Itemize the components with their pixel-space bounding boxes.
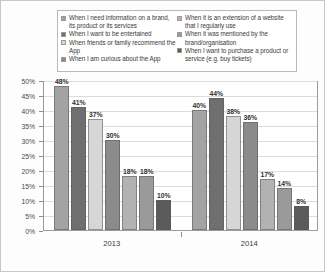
bar-slot: 14% [276,82,293,230]
bar-slot: 48% [53,82,70,230]
bar-value-label: 44% [209,90,223,97]
bar[interactable] [260,179,275,230]
y-axis-tick-label: 5% [25,213,35,220]
x-axis-tick-divider [181,232,182,237]
bar-slot: 10% [155,82,172,230]
legend-item[interactable]: When friends or family recommend the App [61,39,177,55]
legend-swatch-icon [177,16,182,21]
legend-item-label: When I want to purchase a product or ser… [185,47,294,63]
x-axis: 20132014 [43,232,318,256]
bar-value-label: 38% [226,108,240,115]
y-axis-tick-label: 35% [21,123,35,130]
bar-slot: 18% [121,82,138,230]
bar-value-label: 48% [55,78,69,85]
legend-column-left: When I need information on a brand, its … [61,14,177,69]
legend-item-label: When I need information on a brand, its … [69,14,177,30]
bar-slot: 18% [138,82,155,230]
legend-swatch-icon [177,48,182,53]
bar-value-label: 8% [296,198,306,205]
bar[interactable] [192,110,207,230]
bar-value-label: 10% [157,192,171,199]
bar[interactable] [88,119,103,230]
bar-value-label: 17% [260,171,274,178]
y-axis-tick-label: 25% [21,153,35,160]
bar[interactable] [156,200,171,230]
legend-swatch-icon [61,57,66,62]
x-axis-category-label: 2014 [241,239,258,248]
legend-item[interactable]: When I need information on a brand, its … [61,14,177,30]
bar-slot: 40% [191,82,208,230]
legend-item[interactable]: When I want to be entertained [61,30,177,38]
bar[interactable] [226,116,241,230]
chart-figure: When I need information on a brand, its … [0,0,325,272]
bar-value-label: 36% [243,114,257,121]
bar-slot: 36% [242,82,259,230]
bar[interactable] [139,176,154,230]
bar-value-label: 30% [106,132,120,139]
bar-slot: 17% [259,82,276,230]
bar-value-label: 14% [277,180,291,187]
bar-slot: 30% [104,82,121,230]
legend-item-label: When I am curious about the App [69,55,161,63]
bar[interactable] [294,206,309,230]
y-axis-tick-label: 40% [21,108,35,115]
legend-item[interactable]: When it was mentioned by the brand/organ… [177,30,294,46]
y-axis-tick-label: 20% [21,168,35,175]
legend-item-label: When I want to be entertained [69,30,152,38]
y-axis-tick-label: 45% [21,93,35,100]
bar-slot: 38% [225,82,242,230]
bar[interactable] [122,176,137,230]
bar-value-label: 18% [123,168,137,175]
bar-slot: 37% [87,82,104,230]
legend-item[interactable]: When I am curious about the App [61,55,177,63]
bar-group: 40%44%38%36%17%14%8% [182,82,320,230]
bar-group: 48%41%37%30%18%18%10% [44,82,182,230]
bar-value-label: 40% [192,102,206,109]
legend-swatch-icon [177,32,182,37]
bar[interactable] [209,98,224,230]
legend-item-label: When it is an extension of a website tha… [185,14,294,30]
legend-item[interactable]: When it is an extension of a website tha… [177,14,294,30]
legend-swatch-icon [61,40,66,45]
plot-area: 48%41%37%30%18%18%10%40%44%38%36%17%14%8… [43,81,318,231]
bar-slot: 8% [293,82,310,230]
bar[interactable] [105,140,120,230]
bar[interactable] [243,122,258,230]
legend-swatch-icon [61,32,66,37]
legend-item-label: When it was mentioned by the brand/organ… [185,30,294,46]
bar-value-label: 41% [72,99,86,106]
bar-slot: 44% [208,82,225,230]
chart-legend: When I need information on a brand, its … [57,10,297,72]
plot-wrapper: 0%5%10%15%20%25%30%35%40%45%50% 48%41%37… [9,81,318,231]
legend-item-label: When friends or family recommend the App [69,39,177,55]
legend-item[interactable]: When I want to purchase a product or ser… [177,47,294,63]
legend-column-right: When it is an extension of a website tha… [177,14,294,69]
y-axis: 0%5%10%15%20%25%30%35%40%45%50% [9,81,39,231]
bar[interactable] [54,86,69,230]
legend-swatch-icon [61,16,66,21]
bar-value-label: 37% [89,111,103,118]
y-axis-tick-label: 15% [21,183,35,190]
bar-value-label: 18% [140,168,154,175]
bar[interactable] [277,188,292,230]
y-axis-tick-label: 0% [25,228,35,235]
y-axis-tick-label: 30% [21,138,35,145]
x-axis-category-label: 2013 [103,239,120,248]
y-axis-tick-label: 50% [21,78,35,85]
bar-slot: 41% [70,82,87,230]
y-axis-tick-label: 10% [21,198,35,205]
bar[interactable] [71,107,86,230]
